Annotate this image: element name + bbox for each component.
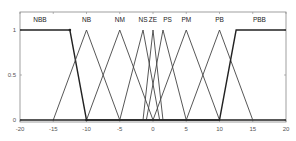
mf-label-nb: NB xyxy=(82,16,91,23)
plot-frame xyxy=(20,12,286,122)
mf-label-ps: PS xyxy=(163,16,172,23)
mf-label-pm: PM xyxy=(181,16,191,23)
x-tick-label: 10 xyxy=(216,126,223,132)
x-tick-label: 0 xyxy=(151,126,155,132)
x-tick-label: -20 xyxy=(16,126,25,132)
membership-function-chart: -20-15-10-505101520 00.51 NBBNBNMNSZEPSP… xyxy=(0,0,296,141)
x-tick-label: 5 xyxy=(185,126,189,132)
y-tick-label: 1 xyxy=(13,27,17,33)
plot-area xyxy=(20,12,286,122)
mf-label-nbb: NBB xyxy=(33,16,46,23)
x-tick-label: -5 xyxy=(117,126,123,132)
mf-label-ze: ZE xyxy=(149,16,158,23)
y-tick-label: 0 xyxy=(13,117,17,123)
x-tick-label: -10 xyxy=(82,126,91,132)
mf-label-nm: NM xyxy=(115,16,125,23)
y-tick-label: 0.5 xyxy=(8,72,17,78)
mf-label-pb: PB xyxy=(215,16,224,23)
mf-label-pbb: PBB xyxy=(253,16,266,23)
x-tick-label: -15 xyxy=(49,126,58,132)
mf-label-ns: NS xyxy=(139,16,149,23)
x-tick-label: 20 xyxy=(283,126,290,132)
x-tick-label: 15 xyxy=(249,126,256,132)
